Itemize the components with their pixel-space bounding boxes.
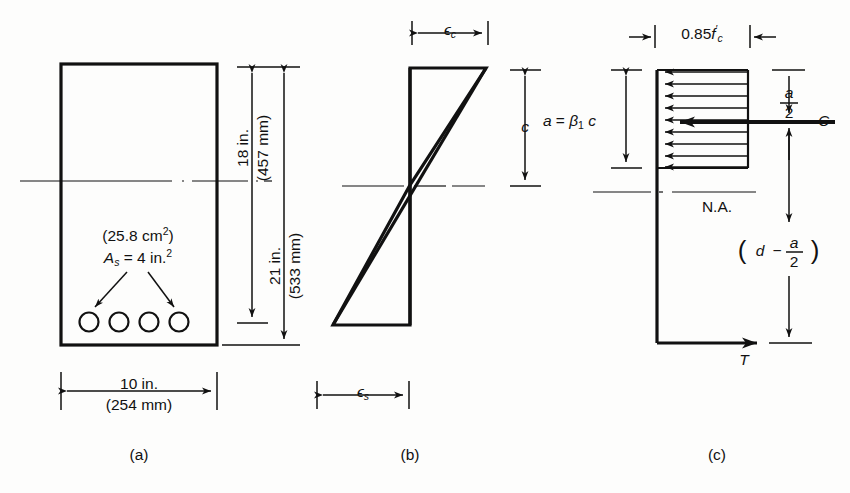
dimension-effective-depth bbox=[237, 67, 268, 323]
lever-arm-close-paren: ) bbox=[811, 235, 820, 265]
lever-arm-denominator: 2 bbox=[790, 253, 799, 270]
figure-container: (25.8 cm2) As = 4 in.2 18 in. (457 mm) 2… bbox=[0, 0, 850, 493]
epsilon-s-label: ϵs bbox=[357, 383, 370, 402]
rebar-circle bbox=[80, 313, 99, 332]
rebar-leader-right bbox=[148, 272, 174, 307]
compression-force-label: C bbox=[818, 112, 830, 129]
stress-block-depth-label: a = β1 c bbox=[543, 112, 596, 131]
dimension-533mm-label: (533 mm) bbox=[286, 233, 303, 299]
tension-force-label: T bbox=[739, 351, 750, 368]
half-depth-denominator: 2 bbox=[785, 104, 794, 121]
rebar-circle bbox=[140, 313, 159, 332]
rebar-group bbox=[80, 313, 189, 332]
panel-a-caption: (a) bbox=[130, 446, 149, 463]
panel-b-caption: (b) bbox=[401, 446, 420, 463]
dimension-21in-label: 21 in. bbox=[266, 247, 283, 285]
dimension-stress-block-depth bbox=[611, 70, 642, 168]
panel-c-stress-block: 0.85f′c a = β1 c a 2 C bbox=[543, 23, 835, 463]
stress-arrow-group bbox=[665, 72, 748, 167]
rebar-leader-left bbox=[95, 272, 127, 307]
panel-b-strain-diagram: ϵc ϵs c (b) bbox=[317, 21, 541, 463]
beam-analysis-diagram: (25.8 cm2) As = 4 in.2 18 in. (457 mm) 2… bbox=[0, 0, 850, 493]
stress-magnitude-label: 0.85f′c bbox=[681, 23, 723, 44]
panel-c-caption: (c) bbox=[708, 446, 726, 463]
lever-arm-d: d bbox=[756, 242, 766, 259]
lever-arm-expression: ( d − a 2 ) bbox=[738, 234, 820, 270]
dimension-total-depth bbox=[222, 67, 300, 345]
neutral-axis-depth-label: c bbox=[521, 118, 529, 135]
neutral-axis-label: N.A. bbox=[702, 198, 732, 215]
steel-area-metric-label: (25.8 cm2) bbox=[102, 225, 173, 244]
beam-section-outline bbox=[61, 64, 217, 345]
rebar-leader-arrows bbox=[95, 272, 174, 307]
lever-arm-numerator: a bbox=[790, 234, 799, 251]
half-depth-numerator: a bbox=[785, 84, 794, 101]
rebar-circle bbox=[110, 313, 129, 332]
epsilon-c-label: ϵc bbox=[444, 21, 457, 40]
rebar-circle bbox=[170, 313, 189, 332]
dimension-10in-label: 10 in. bbox=[120, 375, 158, 392]
panel-a-cross-section: (25.8 cm2) As = 4 in.2 18 in. (457 mm) 2… bbox=[20, 64, 303, 463]
dimension-254mm-label: (254 mm) bbox=[106, 396, 172, 413]
lever-arm-minus: − bbox=[772, 242, 781, 259]
dimension-457mm-label: (457 mm) bbox=[254, 115, 271, 181]
lever-arm-open-paren: ( bbox=[738, 235, 747, 265]
steel-area-label: As = 4 in.2 bbox=[103, 247, 173, 268]
dimension-18in-label: 18 in. bbox=[234, 129, 251, 167]
